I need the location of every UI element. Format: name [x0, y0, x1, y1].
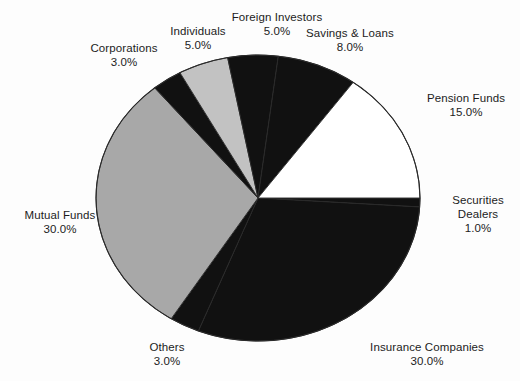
- pie-label-foreign-investors-name: Foreign Investors: [212, 10, 342, 24]
- pie-chart: Corporations 3.0% Individuals 5.0% Forei…: [0, 0, 520, 381]
- pie-label-others-value: 3.0%: [128, 354, 206, 368]
- pie-label-securities-dealers: Securities Dealers 1.0%: [436, 193, 520, 235]
- pie-label-securities-dealers-value: 1.0%: [436, 221, 520, 235]
- pie-label-insurance-companies-value: 30.0%: [352, 354, 502, 368]
- pie-label-mutual-funds: Mutual Funds 30.0%: [8, 208, 112, 236]
- pie-label-others: Others 3.0%: [128, 340, 206, 368]
- pie-label-pension-funds-name: Pension Funds: [412, 91, 520, 105]
- pie-label-pension-funds-value: 15.0%: [412, 105, 520, 119]
- pie-label-corporations-value: 3.0%: [62, 55, 186, 69]
- pie-label-insurance-companies: Insurance Companies 30.0%: [352, 340, 502, 368]
- pie-label-mutual-funds-value: 30.0%: [8, 222, 112, 236]
- pie-slice-group: [96, 55, 420, 341]
- pie-label-individuals-value: 5.0%: [150, 38, 246, 52]
- pie-label-others-name: Others: [128, 340, 206, 354]
- pie-label-pension-funds: Pension Funds 15.0%: [412, 91, 520, 119]
- pie-label-savings-and-loans-name: Savings & Loans: [285, 26, 415, 40]
- pie-label-savings-and-loans: Savings & Loans 8.0%: [285, 26, 415, 54]
- pie-label-mutual-funds-name: Mutual Funds: [8, 208, 112, 222]
- pie-label-insurance-companies-name: Insurance Companies: [352, 340, 502, 354]
- pie-label-securities-dealers-name: Securities: [436, 193, 520, 207]
- pie-label-securities-dealers-name2: Dealers: [436, 207, 520, 221]
- pie-label-savings-and-loans-value: 8.0%: [285, 40, 415, 54]
